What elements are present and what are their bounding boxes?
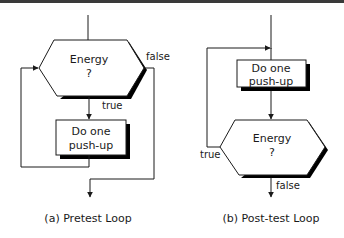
process-label-line2: push-up (249, 75, 294, 88)
flowchart-canvas: Energy ? false true Do one push-up (a) P… (0, 0, 344, 238)
decision-label-line2: ? (269, 146, 275, 159)
process-label-line2: push-up (69, 139, 114, 152)
process-label-line1: Do one (251, 62, 290, 75)
false-edge-label: false (146, 51, 170, 62)
true-edge-label: true (200, 149, 221, 160)
posttest-loop-diagram: Do one push-up Energy ? true false (b) P… (200, 15, 328, 225)
decision-node-energy: Energy ? (39, 40, 147, 99)
caption-posttest: (b) Post-test Loop (222, 212, 319, 225)
caption-pretest: (a) Pretest Loop (44, 212, 131, 225)
process-node-pushup: Do one push-up (56, 120, 130, 159)
false-edge-label: false (276, 180, 300, 191)
process-node-pushup: Do one push-up (237, 60, 310, 91)
decision-label-line1: Energy (253, 132, 292, 145)
decision-label-line1: Energy (70, 53, 109, 66)
decision-label-line2: ? (86, 67, 92, 80)
decision-node-energy: Energy ? (220, 120, 328, 178)
pretest-loop-diagram: Energy ? false true Do one push-up (a) P… (21, 15, 170, 225)
true-edge-label: true (102, 100, 123, 111)
process-label-line1: Do one (71, 125, 110, 138)
